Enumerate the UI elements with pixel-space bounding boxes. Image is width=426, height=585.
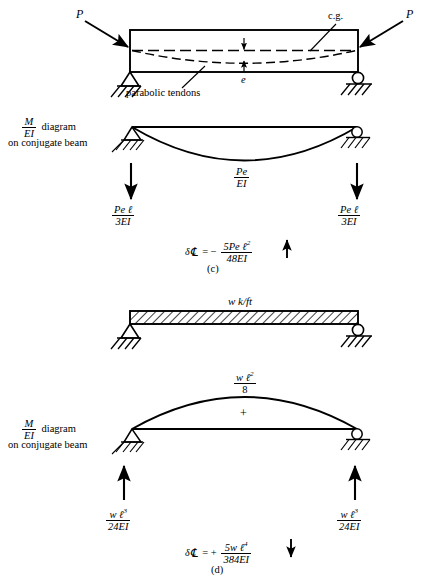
panel-key-c: (c) [207, 264, 219, 275]
force-arrow-right-P [360, 21, 403, 47]
conjugate-label-leader-d [112, 442, 124, 454]
reaction-right-c-num: Pe ℓ [338, 204, 360, 216]
deflection-c-den: 48EI [221, 253, 252, 264]
tendon-label: parabolic tendons [126, 88, 200, 99]
tendon-leader-line [182, 66, 205, 88]
caption-d-num: M [22, 418, 36, 430]
deflection-c-num: 5Pe ℓ2 [221, 240, 252, 253]
figure-canvas: P P c.g. e parabolic tendons M EI diagra… [0, 0, 426, 585]
panel-c-conjugate-beam [112, 127, 370, 258]
deflection-eq-d: = + [200, 548, 218, 559]
force-label-left-P: P [76, 8, 83, 20]
pin-support-d [111, 324, 141, 349]
eccentricity-label: e [241, 75, 246, 86]
moment-value-d-num-exp: 2 [250, 370, 254, 378]
moment-value-d-num-text: w ℓ [236, 372, 250, 383]
caption-d-word: diagram [39, 424, 76, 435]
uniform-load-label: w k/ft [228, 296, 252, 307]
deflection-d-num-exp: 4 [244, 540, 248, 548]
conjugate-beam-caption-d: M EI diagram [22, 418, 76, 441]
figure-linework [0, 0, 426, 585]
pin-support-d2 [116, 429, 144, 452]
moment-value-d-den: 8 [234, 384, 256, 395]
roller-support-d2 [341, 429, 370, 450]
sign-label-d: + [240, 407, 247, 419]
conjugate-beam-caption-d-line2: on conjugate beam [8, 440, 87, 451]
deflection-d-num: 5w ℓ4 [221, 541, 251, 554]
reaction-right-d-num: w ℓ3 [337, 508, 361, 521]
force-arrow-left-P [85, 21, 128, 47]
conjugate-beam-caption-c: M EI diagram [22, 116, 76, 139]
moment-value-c-num: Pe [234, 166, 249, 178]
deflection-d-den: 384EI [221, 554, 251, 565]
caption-c-num: M [22, 116, 36, 128]
deflection-c-num-text: 5Pe ℓ [223, 241, 246, 252]
force-label-right-P: P [406, 8, 413, 20]
moment-value-c-den: EI [234, 178, 249, 189]
reaction-label-right-d: w ℓ3 24EI [337, 508, 361, 532]
reaction-label-left-c: Pe ℓ 3EI [112, 204, 134, 227]
panel-key-d: (d) [211, 565, 223, 576]
deflection-d-num-text: 5w ℓ [225, 542, 244, 553]
reaction-left-d-den: 24EI [106, 521, 130, 532]
cg-leader-line [310, 24, 336, 51]
moment-parabola-c [132, 127, 357, 161]
reaction-right-d-den: 24EI [337, 521, 361, 532]
reaction-right-d-num-exp: 3 [354, 507, 358, 515]
roller-support-c2 [341, 127, 370, 148]
reaction-left-d-num: w ℓ3 [106, 508, 130, 521]
reaction-label-right-c: Pe ℓ 3EI [338, 204, 360, 227]
reaction-left-c-num: Pe ℓ [112, 204, 134, 216]
moment-value-c: Pe EI [234, 166, 249, 189]
reaction-label-left-d: w ℓ3 24EI [106, 508, 130, 532]
deflection-eq-c: = − [200, 247, 218, 258]
roller-support-c [341, 72, 372, 95]
reaction-left-d-num-text: w ℓ [109, 509, 123, 520]
deflection-equation-d: δ℄ = + 5w ℓ4 384EI [185, 541, 251, 565]
reaction-right-c-den: 3EI [338, 216, 360, 227]
deflection-c-num-exp: 2 [247, 239, 251, 247]
conjugate-beam-caption-c-line2: on conjugate beam [8, 138, 87, 149]
centerline-symbol-c: ℄ [190, 246, 198, 258]
reaction-right-d-num-text: w ℓ [340, 509, 354, 520]
reaction-left-c-den: 3EI [112, 216, 134, 227]
panel-d-beam-elevation [111, 311, 372, 349]
uniform-load-band [130, 311, 358, 324]
moment-value-d-num: w ℓ2 [234, 371, 256, 384]
panel-c-beam-elevation [85, 21, 403, 97]
centerline-symbol-d: ℄ [190, 547, 198, 559]
caption-c-word: diagram [39, 122, 76, 133]
moment-value-d: w ℓ2 8 [234, 371, 256, 395]
cg-label: c.g. [328, 11, 343, 22]
conjugate-label-leader-c [112, 140, 124, 152]
deflection-equation-c: δ℄ = − 5Pe ℓ2 48EI [185, 240, 252, 264]
panel-d-conjugate-beam [112, 397, 370, 557]
reaction-left-d-num-exp: 3 [123, 507, 127, 515]
roller-support-d [341, 324, 372, 347]
